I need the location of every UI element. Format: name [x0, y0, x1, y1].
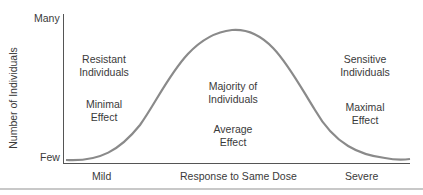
x-axis-label: Response to Same Dose	[180, 170, 297, 183]
annotation-minimal-effect: Minimal Effect	[74, 98, 134, 124]
annotation-average-effect: Average Effect	[201, 123, 265, 149]
x-tick-mild: Mild	[92, 170, 111, 183]
y-tick-many: Many	[34, 12, 60, 25]
annotation-sensitive: Sensitive Individuals	[332, 53, 398, 79]
y-axis-label: Number of Individuals	[7, 43, 19, 153]
y-tick-few: Few	[40, 151, 60, 164]
annotation-majority: Majority of Individuals	[201, 80, 265, 106]
annotation-resistant: Resistant Individuals	[74, 53, 134, 79]
annotation-maximal-effect: Maximal Effect	[332, 101, 398, 127]
bottom-divider	[0, 188, 423, 190]
x-tick-severe: Severe	[345, 170, 378, 183]
